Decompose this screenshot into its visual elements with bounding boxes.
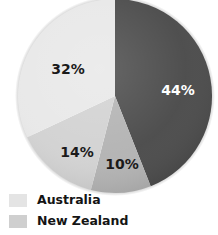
chart-legend: Australia New Zealand (0, 190, 218, 232)
pie-chart-plot-area: 44% 10% 14% 32% (0, 0, 218, 196)
pie-chart-figure: 44% 10% 14% 32% Australia New Zealand (0, 0, 218, 235)
legend-swatch-icon-new-zealand (9, 215, 27, 228)
legend-item-australia[interactable]: Australia (0, 190, 218, 210)
pie-gloss-overlay (18, 0, 212, 193)
pie-chart-svg (0, 0, 218, 196)
legend-swatch-icon-australia (9, 194, 27, 207)
legend-item-new-zealand[interactable]: New Zealand (0, 211, 218, 231)
legend-label-new-zealand: New Zealand (37, 215, 128, 228)
legend-label-australia: Australia (37, 194, 101, 207)
